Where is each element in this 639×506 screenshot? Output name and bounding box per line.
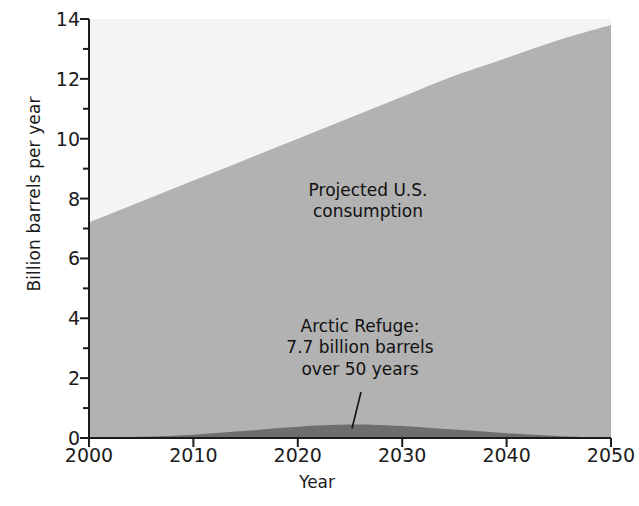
y-axis-tick-label: 8 [28,188,80,210]
y-axis-tick-label: 12 [28,68,80,90]
x-axis-title: Year [0,472,634,492]
y-axis-tick-labels: 02468101214 [22,0,80,506]
x-axis-tick-label: 2050 [571,444,639,466]
y-axis-tick-label: 14 [28,8,80,30]
x-axis-tick-label: 2020 [258,444,338,466]
x-axis-tick-label: 2000 [49,444,129,466]
annotation-arctic-refuge: Arctic Refuge: 7.7 billion barrels over … [252,316,468,380]
y-axis-tick-label: 6 [28,247,80,269]
y-axis-tick-label: 2 [28,367,80,389]
y-axis-tick-label: 4 [28,307,80,329]
x-axis-tick-label: 2040 [467,444,547,466]
annotation-projected-consumption: Projected U.S. consumption [268,180,468,223]
x-axis-tick-label: 2030 [362,444,442,466]
x-axis-tick-label: 2010 [153,444,233,466]
y-axis-tick-label: 10 [28,128,80,150]
